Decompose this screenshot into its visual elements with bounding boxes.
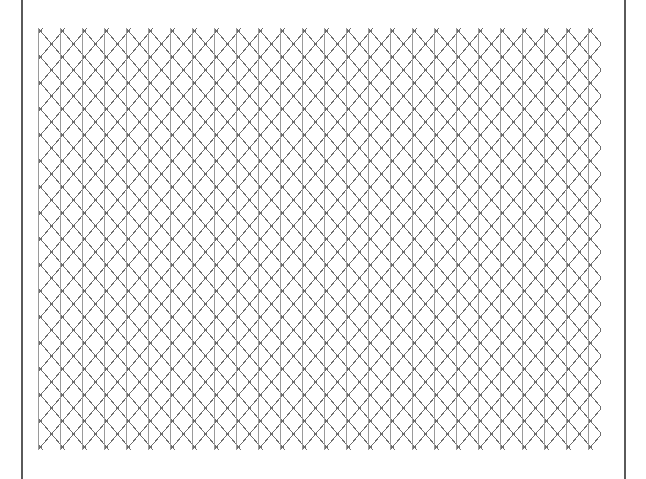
- graph-paper-page: Isometric Graph Paper isometric triangle…: [0, 0, 646, 479]
- grid-vertical-lines: [38, 28, 588, 450]
- isometric-grid-area: [38, 28, 601, 450]
- left-margin-rule: [21, 0, 23, 479]
- right-margin-rule: [624, 0, 626, 479]
- isometric-grid-svg: [38, 28, 601, 450]
